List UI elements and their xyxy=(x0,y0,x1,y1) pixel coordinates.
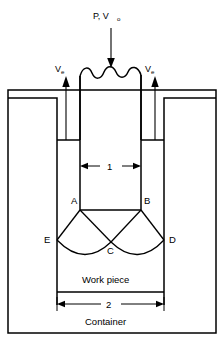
load-arrow-group xyxy=(107,28,115,68)
point-label-c: C xyxy=(107,245,114,256)
dimension-workpiece-label: 2 xyxy=(106,299,111,310)
container-label: Container xyxy=(85,316,126,327)
field-arc-EC xyxy=(57,240,111,255)
workpiece-label: Work piece xyxy=(82,274,129,285)
load-label-group: P, V o xyxy=(93,11,121,22)
right-die-profile xyxy=(164,98,216,305)
punch-body xyxy=(80,67,141,210)
dim2-left-arrowhead xyxy=(57,301,65,307)
field-line-BD xyxy=(141,210,164,240)
point-label-d: D xyxy=(169,234,176,245)
dim1-right-arrowhead xyxy=(133,163,141,169)
exit-velocity-arrow-left xyxy=(62,76,69,140)
exit-arrow-right-head xyxy=(151,76,158,87)
exit-velocity-right-subscript: e xyxy=(151,68,155,75)
exit-velocity-arrow-right xyxy=(151,76,158,140)
field-arc-CD xyxy=(111,240,164,255)
load-label-subscript: o xyxy=(117,15,121,22)
dim1-left-arrowhead xyxy=(80,163,88,169)
point-label-a: A xyxy=(71,195,78,206)
exit-velocity-left-label-group: V e xyxy=(55,64,65,75)
point-label-e: E xyxy=(44,234,50,245)
figure-canvas: P, V o V e V e 1 2 A B C D E Work piece … xyxy=(0,0,224,341)
load-label: P, V xyxy=(93,11,109,21)
dim2-right-arrowhead xyxy=(156,301,164,307)
point-label-b: B xyxy=(144,195,150,206)
left-die-block xyxy=(8,98,80,305)
field-line-BC xyxy=(111,210,141,242)
exit-velocity-left-subscript: e xyxy=(61,68,65,75)
extrusion-slipline-figure: P, V o V e V e 1 2 A B C D E Work piece … xyxy=(0,0,224,341)
left-die-profile xyxy=(8,98,57,305)
container-box xyxy=(8,90,216,333)
dimension-punch-label: 1 xyxy=(107,161,112,172)
container-outline xyxy=(8,90,216,333)
field-line-AC xyxy=(80,210,111,242)
exit-velocity-right-label-group: V e xyxy=(145,64,155,75)
field-line-AE xyxy=(57,210,80,240)
exit-arrow-left-head xyxy=(62,76,69,87)
right-die-block xyxy=(141,98,216,305)
punch-break-line xyxy=(80,67,141,78)
